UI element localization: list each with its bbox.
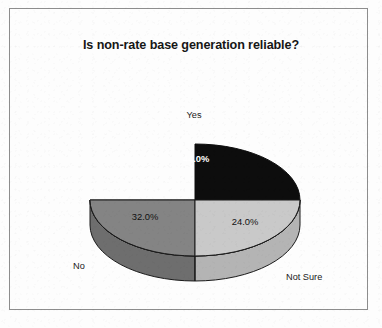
pie-category-label-not-sure: Not Sure [286, 272, 322, 282]
pie-chart: 44.0% 32.0% 24.0% [0, 0, 382, 328]
pie-category-label-yes: Yes [187, 110, 202, 120]
pie-category-label-no: No [73, 261, 85, 271]
pie-value-label-yes: 44.0% [183, 153, 210, 164]
chart-figure: Is non-rate base generation reliable? 44… [0, 0, 382, 328]
pie-value-label-no: 32.0% [132, 211, 159, 222]
pie-value-label-not-sure: 24.0% [232, 216, 259, 227]
